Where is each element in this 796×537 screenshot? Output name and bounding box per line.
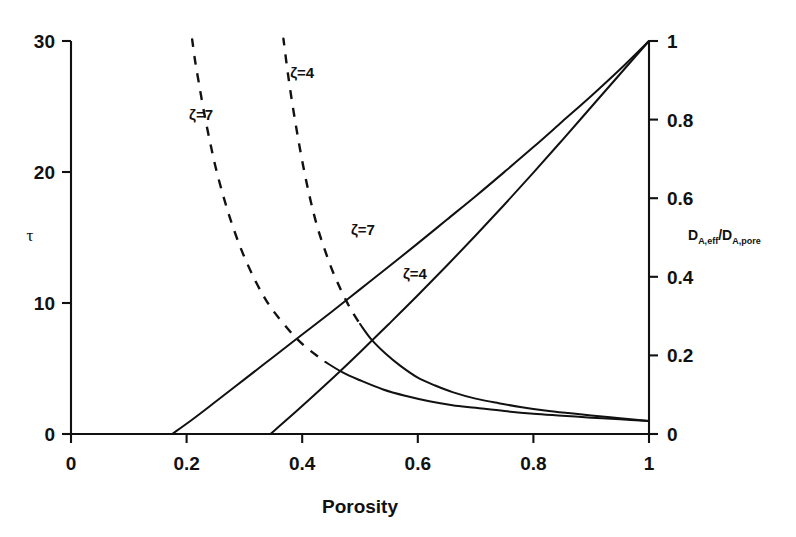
x-tick-label: 1 [644, 453, 655, 474]
curve-label-tortuosity-zeta-7: ζ=7 [189, 106, 213, 123]
y2-title-d1: D [688, 227, 698, 243]
y2-tick-label: 0.2 [667, 345, 693, 366]
y-tick-label: 10 [34, 293, 55, 314]
curve-label-diffusivity-zeta-4: ζ=4 [403, 265, 428, 282]
x-tick-label: 0.8 [520, 453, 546, 474]
y2-tick-label: 1 [667, 31, 678, 52]
x-axis-title: Porosity [322, 496, 398, 517]
x-tick-label: 0.2 [173, 453, 199, 474]
curve-label-diffusivity-zeta-7: ζ=7 [351, 221, 375, 238]
y2-tick-label: 0 [667, 424, 678, 445]
y2-tick-label: 0.8 [667, 110, 693, 131]
y-tick-label: 20 [34, 162, 55, 183]
x-tick-label: 0.6 [405, 453, 431, 474]
y-axis-title: τ [27, 226, 34, 245]
y2-title-sub1: A,eff [698, 236, 719, 246]
porosity-tortuosity-diffusivity-plot: 00.20.40.60.81010203000.20.40.60.81 ζ=7ζ… [0, 0, 796, 537]
y2-title-d2: D [722, 227, 732, 243]
y-tick-label: 30 [34, 31, 55, 52]
curve-label-tortuosity-zeta-4: ζ=4 [290, 64, 315, 81]
x-tick-label: 0.4 [289, 453, 316, 474]
y2-tick-label: 0.4 [667, 267, 694, 288]
y2-tick-label: 0.6 [667, 188, 693, 209]
y2-title-sub2: A,pore [732, 236, 761, 246]
x-tick-label: 0 [66, 453, 77, 474]
chart-figure: 00.20.40.60.81010203000.20.40.60.81 ζ=7ζ… [0, 0, 796, 537]
y-tick-label: 0 [44, 424, 55, 445]
